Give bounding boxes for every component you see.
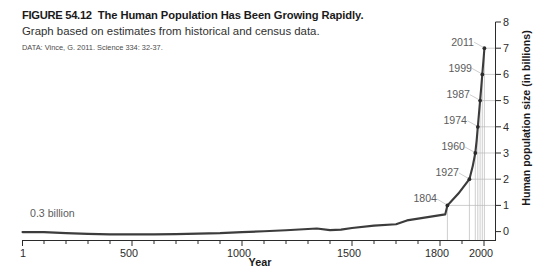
y-axis-title-text: Human population size (in billions) xyxy=(520,3,532,233)
y-tick-label-0: 0 xyxy=(503,225,509,237)
chart-svg xyxy=(0,0,558,277)
annotation-1974: 1974 xyxy=(411,114,467,126)
y-axis-title: Human population size (in billions) xyxy=(492,0,512,18)
y-tick-label-2: 2 xyxy=(503,173,509,185)
figure-container: FIGURE 54.12 The Human Population Has Be… xyxy=(0,0,558,277)
annotation-1804: 1804 xyxy=(381,192,437,204)
annotation-1999: 1999 xyxy=(416,62,472,74)
y-tick-label-7: 7 xyxy=(503,42,509,54)
y-tick-label-1: 1 xyxy=(503,199,509,211)
annotation-1960: 1960 xyxy=(409,140,465,152)
x-axis xyxy=(22,241,496,247)
y-tick-label-6: 6 xyxy=(503,68,509,80)
annotation-start-population: 0.3 billion xyxy=(30,207,75,219)
y-axis xyxy=(496,22,502,241)
annotation-1987: 1987 xyxy=(414,88,470,100)
y-tick-label-5: 5 xyxy=(503,94,509,106)
x-axis-title: Year xyxy=(0,256,520,268)
y-tick-label-4: 4 xyxy=(503,121,509,133)
plot-area xyxy=(0,0,558,277)
annotation-2011: 2011 xyxy=(418,36,474,48)
annotation-1927: 1927 xyxy=(403,166,459,178)
y-tick-label-3: 3 xyxy=(503,147,509,159)
